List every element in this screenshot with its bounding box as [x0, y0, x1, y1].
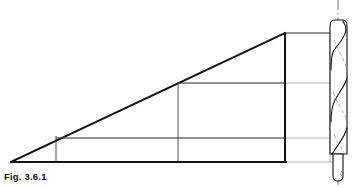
wedge-internal-divisions [56, 33, 330, 162]
shank-outline [333, 154, 343, 181]
wedge-hypotenuse [11, 33, 285, 162]
drill-shank [333, 154, 343, 181]
figure-container: Fig. 3.6.1 [0, 0, 352, 188]
technical-drawing [0, 0, 352, 188]
construction-lines [56, 33, 338, 162]
figure-caption: Fig. 3.6.1 [4, 171, 47, 182]
wedge-outline [11, 33, 286, 162]
